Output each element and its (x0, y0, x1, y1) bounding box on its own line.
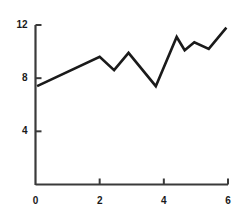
x-tick-label: 0 (26, 196, 46, 206)
line-chart: 4812 0246 (0, 0, 243, 216)
y-tick-label: 12 (8, 20, 28, 30)
data-series-line (37, 28, 226, 86)
axis-group (36, 25, 229, 185)
y-tick-label: 4 (8, 126, 28, 136)
x-tick-label: 2 (90, 196, 110, 206)
plot-area (0, 0, 243, 216)
x-tick-label: 6 (218, 196, 238, 206)
y-tick-label: 8 (8, 73, 28, 83)
x-tick-label: 4 (154, 196, 174, 206)
